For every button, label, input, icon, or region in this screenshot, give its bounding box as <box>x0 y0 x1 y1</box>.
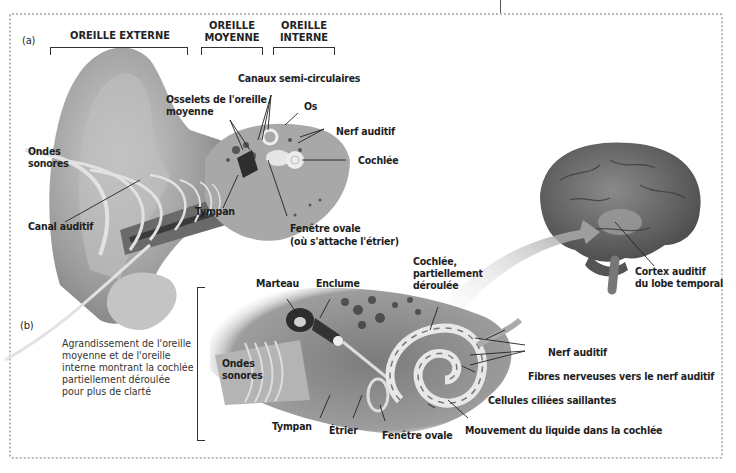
section-label-inner-ear: OREILLE INTERNE <box>272 20 336 44</box>
middle-ear-bracket <box>201 47 263 55</box>
label-ossicles-line1: Osselets de l'oreille <box>166 93 267 105</box>
label-bone: Os <box>304 100 317 112</box>
label-nerve-fibers: Fibres nerveuses vers le nerf auditif <box>528 370 714 382</box>
label-anvil: Enclume <box>316 277 360 289</box>
label-eardrum-b: Tympan <box>272 420 312 432</box>
caption-line4: partiellement déroulée <box>62 373 170 386</box>
label-auditory-nerve-b: Nerf auditif <box>548 346 607 358</box>
panel-a-tag: (a) <box>22 35 35 47</box>
label-oval-window-a-line1: Fenêtre ovale <box>290 222 361 234</box>
label-ear-canal: Canal auditif <box>28 220 93 232</box>
label-sound-waves-a-line1: Ondes <box>28 145 61 157</box>
label-sound-waves-b-line2: sonores <box>222 369 263 381</box>
label-auditory-cortex-line2: du lobe temporal <box>635 277 723 289</box>
label-sound-waves-a-line2: sonores <box>28 157 69 169</box>
label-cochlea-a: Cochlée <box>358 154 398 166</box>
label-hammer: Marteau <box>256 277 299 289</box>
label-stirrup: Étrier <box>329 424 358 436</box>
label-auditory-cortex-line1: Cortex auditif <box>635 265 706 277</box>
label-eardrum-a: Tympan <box>195 205 235 217</box>
inner-ear-bracket <box>273 47 335 55</box>
label-cochlea-b-line1: Cochlée, <box>413 255 457 267</box>
label-oval-window-a-line2: (où s'attache l'étrier) <box>290 235 399 247</box>
caption-line2: moyenne et de l'oreille <box>62 349 171 362</box>
label-fluid-movement: Mouvement du liquide dans la cochlée <box>465 424 662 436</box>
caption-line1: Agrandissement de l'oreille <box>62 337 191 350</box>
caption-line3: interne montrant la cochlée <box>62 361 193 374</box>
label-sound-waves-b-line1: Ondes <box>222 357 255 369</box>
label-cochlea-b-line2: partiellement <box>413 267 483 279</box>
section-label-middle-ear: OREILLE MOYENNE <box>200 20 264 44</box>
label-semicircular-canals: Canaux semi-circulaires <box>238 72 360 84</box>
label-ossicles-line2: moyenne <box>166 105 213 117</box>
label-auditory-nerve-a: Nerf auditif <box>336 125 395 137</box>
panel-b-tag: (b) <box>20 320 33 332</box>
enlarged-ear-illustration <box>210 288 520 433</box>
label-hair-cells: Cellules ciliées saillantes <box>488 394 616 406</box>
outer-ear-bracket <box>50 47 188 55</box>
caption-line5: pour plus de clarté <box>62 385 151 398</box>
label-oval-window-b: Fenêtre ovale <box>382 429 453 441</box>
panel-b-bracket <box>197 287 205 441</box>
label-cochlea-b-line3: déroulée <box>413 279 459 291</box>
section-label-outer-ear: OREILLE EXTERNE <box>50 30 190 42</box>
